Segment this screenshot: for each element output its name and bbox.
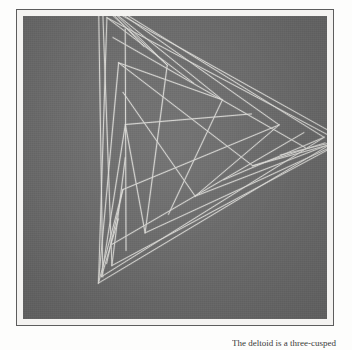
envelope-line — [98, 16, 167, 65]
envelope-line — [98, 16, 167, 65]
envelope-line — [123, 92, 195, 196]
envelope-line — [145, 65, 167, 233]
envelope-line — [119, 63, 223, 100]
envelope-line — [113, 133, 304, 244]
envelope-line — [125, 124, 145, 232]
figure-caption: The deltoid is a three-cusped — [232, 338, 352, 349]
page-canvas: The deltoid is a three-cusped — [0, 0, 352, 350]
envelope-glow-group — [98, 16, 327, 283]
plate-frame — [16, 9, 334, 326]
envelope-line — [101, 137, 324, 276]
envelope-line — [125, 29, 126, 250]
photographic-plate — [23, 16, 327, 319]
deltoid-figure — [23, 16, 327, 319]
